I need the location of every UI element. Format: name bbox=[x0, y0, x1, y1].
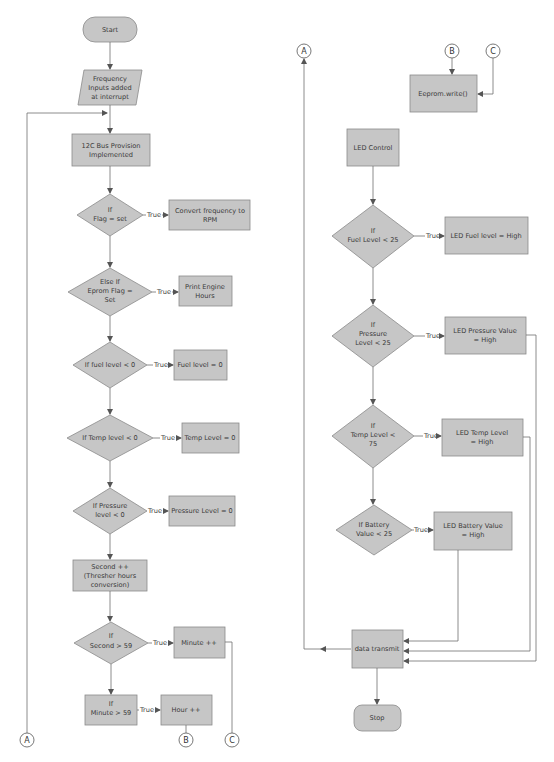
node-text: Hour ++ bbox=[171, 706, 200, 714]
node-text: Pressure bbox=[359, 330, 387, 338]
data-transmit-node: data transmit bbox=[352, 630, 403, 668]
decision-temp-below-75: If Temp Level < 75 bbox=[332, 405, 414, 468]
node-text: Implemented bbox=[89, 151, 133, 159]
true-label: True bbox=[423, 432, 438, 440]
true-label: True bbox=[153, 361, 168, 369]
hour-increment-node: Hour ++ bbox=[161, 695, 212, 725]
connector-a-top: A bbox=[297, 44, 311, 58]
node-text: LED Pressure Value bbox=[453, 327, 516, 335]
node-text: Level < 25 bbox=[355, 339, 391, 347]
node-text: = High bbox=[471, 438, 494, 446]
print-engine-hours-node: Print Engine Hours bbox=[179, 276, 232, 306]
edge-to-c bbox=[225, 642, 232, 733]
node-text: Convert frequency to bbox=[175, 207, 245, 215]
connector-c-top: C bbox=[486, 44, 500, 58]
connector-b-bottom: B bbox=[179, 733, 193, 747]
connector-label: B bbox=[449, 47, 455, 56]
frequency-input-node: Frequency Inputs added at interrupt bbox=[78, 70, 142, 105]
node-text: (Thresher hours bbox=[84, 572, 137, 580]
node-text: LED Fuel level = High bbox=[450, 232, 521, 240]
led-pressure-node: LED Pressure Value = High bbox=[445, 317, 526, 354]
connector-label: A bbox=[301, 47, 307, 56]
led-fuel-node: LED Fuel level = High bbox=[445, 217, 528, 254]
node-text: Fuel Level < 25 bbox=[347, 236, 398, 244]
node-text: = High bbox=[474, 336, 497, 344]
connector-label: B bbox=[183, 736, 189, 745]
stop-terminal: Stop bbox=[354, 705, 401, 731]
node-text: Temp Level < bbox=[350, 431, 396, 439]
led-control-node: LED Control bbox=[347, 129, 399, 166]
true-label: True bbox=[425, 232, 440, 240]
eeprom-write-node: Eeprom.write() bbox=[410, 75, 477, 112]
connector-c-bottom: C bbox=[225, 733, 239, 747]
node-text: data transmit bbox=[355, 645, 400, 653]
node-text: If bbox=[371, 422, 376, 430]
node-text: Minute > 59 bbox=[91, 709, 132, 717]
connector-label: C bbox=[490, 47, 496, 56]
stop-label: Stop bbox=[370, 714, 385, 722]
decision-pressure-below-25: If Pressure Level < 25 bbox=[332, 305, 414, 367]
true-label: True bbox=[156, 288, 171, 296]
node-text: If Temp level < 0 bbox=[82, 434, 138, 442]
decision-temp-below-zero: If Temp level < 0 bbox=[67, 415, 153, 461]
convert-rpm-node: Convert frequency to RPM bbox=[169, 200, 250, 230]
node-text: 75 bbox=[369, 440, 377, 448]
node-text: Fuel level = 0 bbox=[177, 361, 222, 369]
true-label: True bbox=[160, 434, 175, 442]
node-text: Frequency bbox=[93, 75, 127, 83]
node-text: Pressure Level = 0 bbox=[171, 507, 233, 515]
node-text: Second ++ bbox=[91, 563, 128, 571]
node-text: Temp Level = 0 bbox=[184, 434, 236, 442]
node-text: Else If bbox=[100, 278, 121, 286]
node-text: LED Temp Level bbox=[456, 429, 508, 437]
node-text: conversion) bbox=[91, 581, 130, 589]
node-text: Minute ++ bbox=[181, 639, 217, 647]
node-text: = High bbox=[462, 531, 485, 539]
node-text: Inputs added bbox=[88, 84, 131, 92]
node-text: LED Battery Value bbox=[443, 522, 503, 530]
decision-pressure-below-zero: If Pressure level < 0 bbox=[73, 488, 147, 534]
connector-label: A bbox=[24, 736, 30, 745]
led-temp-node: LED Temp Level = High bbox=[442, 419, 523, 456]
decision-second-over-59: If Second > 59 bbox=[74, 622, 148, 664]
node-text: Value < 25 bbox=[356, 530, 392, 538]
led-battery-node: LED Battery Value = High bbox=[434, 512, 512, 550]
arrowhead bbox=[320, 646, 326, 652]
edge-to-transmit bbox=[404, 335, 536, 661]
decision-flag-set: If Flag = set bbox=[77, 194, 143, 236]
node-text: level < 0 bbox=[95, 511, 125, 519]
edge-to-transmit bbox=[404, 550, 458, 641]
node-text: If Battery bbox=[359, 521, 390, 529]
node-text: LED Control bbox=[354, 144, 393, 152]
node-text: RPM bbox=[203, 216, 218, 224]
true-label: True bbox=[425, 332, 440, 340]
node-text: at interrupt bbox=[91, 93, 129, 101]
decision-battery-below-25: If Battery Value < 25 bbox=[336, 505, 412, 555]
decision-fuel-below-25: If Fuel Level < 25 bbox=[332, 205, 414, 268]
node-text: If bbox=[371, 227, 376, 235]
node-text: If bbox=[371, 321, 376, 329]
decision-eprom-flag: Else If Eprom Flag = Set bbox=[68, 268, 152, 316]
second-increment-node: Second ++ (Thresher hours conversion) bbox=[73, 560, 147, 591]
node-text: Print Engine bbox=[185, 283, 225, 291]
node-text: 12C Bus Provision bbox=[82, 142, 141, 150]
node-text: If bbox=[109, 632, 114, 640]
pressure-zero-node: Pressure Level = 0 bbox=[169, 496, 235, 526]
start-label: Start bbox=[102, 26, 119, 34]
connector-label: C bbox=[229, 736, 235, 745]
node-text: Flag = set bbox=[93, 215, 127, 223]
node-text: Second > 59 bbox=[90, 642, 132, 650]
minute-increment-node: Minute ++ bbox=[174, 627, 225, 658]
connector-b-top: B bbox=[445, 44, 459, 58]
fuel-zero-node: Fuel level = 0 bbox=[174, 350, 227, 380]
node-text: Hours bbox=[195, 292, 215, 300]
node-text: Eeprom.write() bbox=[418, 90, 467, 98]
true-label: True bbox=[147, 507, 162, 515]
temp-zero-node: Temp Level = 0 bbox=[182, 423, 239, 453]
true-label: True bbox=[413, 526, 428, 534]
node-text: Eprom Flag = bbox=[88, 287, 133, 295]
node-text: If bbox=[108, 206, 113, 214]
true-label: True bbox=[139, 706, 154, 714]
start-terminal: Start bbox=[83, 17, 137, 42]
node-text: If bbox=[109, 700, 114, 708]
